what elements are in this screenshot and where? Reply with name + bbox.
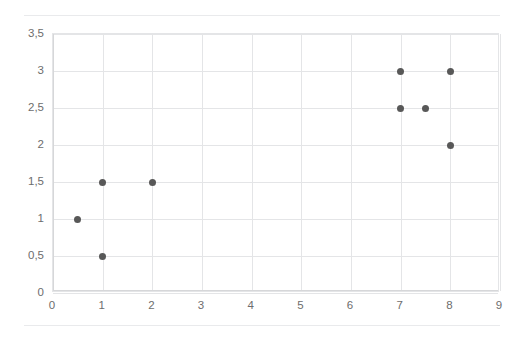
gridline-y-5 [53,108,498,109]
y-tick-label: 3,5 [4,27,44,39]
gridline-y-7 [53,34,498,35]
data-point [422,105,429,112]
gridline-x-5 [301,34,302,291]
data-point [74,216,81,223]
x-tick-label: 1 [87,299,117,311]
x-tick-label: 0 [37,299,67,311]
data-point [149,179,156,186]
y-tick-label: 1,5 [4,175,44,187]
bottom-divider-rule [24,325,500,326]
y-tick-label: 2,5 [4,101,44,113]
gridline-y-3 [53,182,498,183]
plot-area [52,33,499,292]
gridline-x-2 [152,34,153,291]
x-axis-line [53,290,498,291]
gridline-x-4 [252,34,253,291]
x-tick-label: 7 [385,299,415,311]
gridline-y-6 [53,71,498,72]
data-point [397,105,404,112]
data-point [447,142,454,149]
x-tick-label: 6 [335,299,365,311]
x-tick-label: 8 [434,299,464,311]
gridline-y-4 [53,145,498,146]
x-tick-label: 2 [136,299,166,311]
top-divider-rule [24,15,500,16]
gridline-y-2 [53,219,498,220]
gridline-x-3 [202,34,203,291]
data-point [397,68,404,75]
gridline-y-0 [53,293,498,294]
y-tick-label: 0,5 [4,249,44,261]
y-tick-label: 3 [4,64,44,76]
x-tick-label: 9 [484,299,514,311]
y-axis-line [53,34,54,291]
y-tick-label: 2 [4,138,44,150]
y-tick-label: 1 [4,212,44,224]
x-tick-label: 4 [236,299,266,311]
data-point [99,253,106,260]
gridline-x-9 [500,34,501,291]
data-point [99,179,106,186]
gridline-x-6 [351,34,352,291]
gridline-y-1 [53,256,498,257]
x-tick-label: 5 [285,299,315,311]
data-point [447,68,454,75]
y-tick-label: 0 [4,286,44,298]
x-tick-label: 3 [186,299,216,311]
scatter-chart: 00,511,522,533,5 0123456789 [0,0,524,338]
